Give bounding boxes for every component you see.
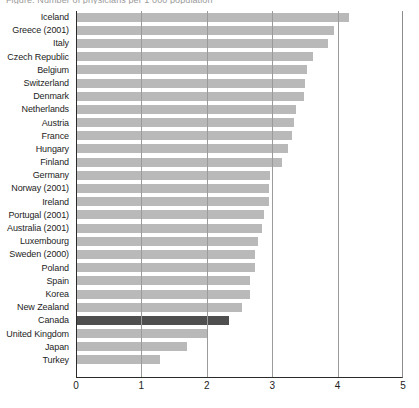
category-label: Poland <box>0 262 72 275</box>
x-tick-label: 2 <box>204 380 210 391</box>
category-label: New Zealand <box>0 301 72 314</box>
category-label: Portugal (2001) <box>0 209 72 222</box>
bar <box>76 184 269 193</box>
category-label: Germany <box>0 169 72 182</box>
bar-row <box>76 341 403 354</box>
bar-row <box>76 235 403 248</box>
bar-row <box>76 90 403 103</box>
x-tick-label: 5 <box>400 380 406 391</box>
bar-row <box>76 24 403 37</box>
category-label: Switzerland <box>0 77 72 90</box>
plot-area <box>76 11 403 378</box>
figure-caption: Figure: Number of physicians per 1 000 p… <box>6 0 411 4</box>
bar <box>76 276 250 285</box>
category-label: Australia (2001) <box>0 222 72 235</box>
gridline-4 <box>338 11 339 378</box>
bar <box>76 92 304 101</box>
category-label: Greece (2001) <box>0 24 72 37</box>
bar <box>76 237 258 246</box>
bar <box>76 105 296 114</box>
bar-row <box>76 103 403 116</box>
category-label: Norway (2001) <box>0 182 72 195</box>
bar-row <box>76 275 403 288</box>
horizontal-bar-chart: Figure: Number of physicians per 1 000 p… <box>0 0 419 408</box>
category-label: Czech Republic <box>0 51 72 64</box>
bar-row <box>76 248 403 261</box>
value-axis-ticks: 012345 <box>76 380 403 398</box>
bar-row <box>76 196 403 209</box>
bar-row <box>76 328 403 341</box>
bar-row <box>76 182 403 195</box>
bar-row <box>76 301 403 314</box>
bar <box>76 26 334 35</box>
category-label: Finland <box>0 156 72 169</box>
bar-row <box>76 64 403 77</box>
bar <box>76 263 255 272</box>
x-tick-label: 1 <box>139 380 145 391</box>
bar-row <box>76 37 403 50</box>
bar <box>76 13 349 22</box>
bar <box>76 118 294 127</box>
category-label: Turkey <box>0 354 72 367</box>
bar-row <box>76 156 403 169</box>
bar <box>76 144 288 153</box>
bar <box>76 303 242 312</box>
bar-row <box>76 314 403 327</box>
bar <box>76 355 160 364</box>
bar-row <box>76 77 403 90</box>
category-label: Spain <box>0 275 72 288</box>
category-label: Netherlands <box>0 103 72 116</box>
bar-series <box>76 11 403 378</box>
bar-row <box>76 354 403 367</box>
category-label: Belgium <box>0 64 72 77</box>
bar-row <box>76 51 403 64</box>
category-label: Japan <box>0 341 72 354</box>
gridline-1 <box>141 11 142 378</box>
bar <box>76 52 313 61</box>
bar <box>76 131 292 140</box>
bar <box>76 197 269 206</box>
bar <box>76 79 305 88</box>
bar-row <box>76 209 403 222</box>
gridline-3 <box>272 11 273 378</box>
bar-row <box>76 169 403 182</box>
category-label: Italy <box>0 37 72 50</box>
bar <box>76 210 264 219</box>
bar <box>76 158 282 167</box>
category-label: Luxembourg <box>0 235 72 248</box>
x-tick-label: 4 <box>335 380 341 391</box>
category-label: United Kingdom <box>0 328 72 341</box>
bar-row <box>76 222 403 235</box>
bar-row <box>76 117 403 130</box>
category-label: Denmark <box>0 90 72 103</box>
bar <box>76 39 328 48</box>
category-label: Sweden (2000) <box>0 248 72 261</box>
bar-row <box>76 143 403 156</box>
bar <box>76 290 250 299</box>
bar-row <box>76 262 403 275</box>
bar <box>76 224 262 233</box>
category-label: Canada <box>0 314 72 327</box>
category-label: Iceland <box>0 11 72 24</box>
category-label: Ireland <box>0 196 72 209</box>
bar-row <box>76 130 403 143</box>
category-label: Korea <box>0 288 72 301</box>
category-axis-labels: IcelandGreece (2001)ItalyCzech RepublicB… <box>0 11 72 378</box>
category-label: Austria <box>0 117 72 130</box>
bar <box>76 171 270 180</box>
gridline-2 <box>207 11 208 378</box>
category-label: France <box>0 130 72 143</box>
bar-row <box>76 288 403 301</box>
x-tick-label: 3 <box>269 380 275 391</box>
bar <box>76 250 255 259</box>
x-tick-label: 0 <box>73 380 79 391</box>
bar-row <box>76 11 403 24</box>
category-label: Hungary <box>0 143 72 156</box>
bar <box>76 342 187 351</box>
